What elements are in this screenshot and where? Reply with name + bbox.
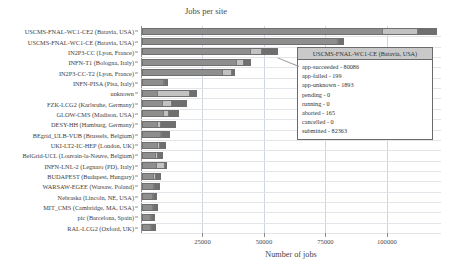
bar-segment-app-succeeded[interactable]: [143, 122, 157, 127]
y-tick-mark: [135, 72, 138, 73]
bar-segment-app-unknown[interactable]: [243, 60, 250, 65]
y-tick-mark: [135, 82, 138, 83]
category-label: GLOW-CMS (Madison, USA): [57, 110, 135, 117]
gridline-horizontal: [141, 171, 441, 172]
bar-stacked[interactable]: [142, 162, 167, 169]
bar-segment-app-succeeded[interactable]: [143, 225, 150, 230]
bar-segment-app-succeeded[interactable]: [143, 70, 222, 75]
y-tick-mark: [135, 31, 138, 32]
bar-segment-app-succeeded[interactable]: [143, 49, 250, 54]
bar-segment-app-failed[interactable]: [157, 91, 189, 96]
bar-segment-app-unknown[interactable]: [151, 215, 154, 220]
gridline-horizontal: [141, 161, 441, 162]
x-axis-title: Number of jobs: [141, 250, 441, 259]
bar-stacked[interactable]: [142, 79, 168, 86]
bar-segment-app-succeeded[interactable]: [143, 215, 150, 220]
bar-segment-app-failed[interactable]: [222, 70, 230, 75]
tooltip-row: cancelled - 0: [302, 117, 428, 126]
bar-stacked[interactable]: [142, 121, 176, 128]
bar-segment-app-failed[interactable]: [236, 60, 243, 65]
bar-segment-app-succeeded[interactable]: [143, 205, 152, 210]
bar-stacked[interactable]: [142, 48, 278, 55]
bar-stacked[interactable]: [142, 28, 437, 35]
y-tick-mark: [135, 196, 138, 197]
bar-segment-app-unknown[interactable]: [338, 39, 343, 44]
category-label: pic (Barcelona, Spain): [78, 214, 134, 221]
bar-segment-app-unknown[interactable]: [261, 49, 277, 54]
bar-segment-app-succeeded[interactable]: [143, 111, 163, 116]
bar-segment-app-succeeded[interactable]: [143, 153, 155, 158]
bar-segment-app-succeeded[interactable]: [143, 101, 162, 106]
y-tick-mark: [135, 124, 138, 125]
bar-stacked[interactable]: [142, 214, 155, 221]
gridline-horizontal: [141, 150, 441, 151]
bar-stacked[interactable]: [142, 152, 163, 159]
y-tick-mark: [135, 51, 138, 52]
y-tick-mark: [135, 217, 138, 218]
category-label: IN2P3-CC-T2 (Lyon, France): [59, 69, 134, 76]
tooltip-row: running - 0: [302, 99, 428, 108]
bar-segment-app-unknown[interactable]: [161, 132, 169, 137]
bar-segment-app-unknown[interactable]: [160, 122, 175, 127]
x-tick-label: 100000: [377, 238, 397, 245]
bar-segment-app-unknown[interactable]: [171, 101, 186, 106]
bar-segment-app-unknown[interactable]: [157, 153, 162, 158]
bar-segment-app-unknown[interactable]: [164, 163, 166, 168]
bar-segment-app-succeeded[interactable]: [143, 143, 157, 148]
category-label: BUDAPEST (Budapest, Hungary): [47, 173, 134, 180]
gridline-horizontal: [141, 192, 441, 193]
jobs-per-site-chart: Jobs per site USCMS-FNAL-WC1-CE2 (Batavi…: [0, 0, 450, 269]
bar-stacked[interactable]: [142, 142, 166, 149]
bar-stacked[interactable]: [142, 204, 158, 211]
category-label: unknown: [111, 90, 134, 97]
bar-segment-app-succeeded[interactable]: [143, 80, 163, 85]
bar-segment-app-unknown[interactable]: [153, 194, 156, 199]
gridline-horizontal: [141, 202, 441, 203]
bar-segment-app-unknown[interactable]: [155, 174, 160, 179]
category-label: BelGrid-UCL (Louvain-la-Neuve, Belgium): [22, 152, 134, 159]
bar-stacked[interactable]: [142, 110, 179, 117]
y-tick-mark: [135, 113, 138, 114]
x-tick-label: 75000: [317, 238, 333, 245]
gridline-horizontal: [141, 233, 441, 234]
bar-segment-app-failed[interactable]: [250, 49, 262, 54]
bar-segment-app-succeeded[interactable]: [143, 132, 160, 137]
bar-stacked[interactable]: [142, 69, 235, 76]
bar-segment-app-succeeded[interactable]: [143, 194, 152, 199]
bar-segment-app-succeeded[interactable]: [143, 163, 156, 168]
bar-segment-app-succeeded[interactable]: [143, 91, 157, 96]
category-label: INFN-LNL-2 (Legnaro (PD), Italy): [44, 162, 134, 169]
bar-segment-app-succeeded[interactable]: [143, 184, 153, 189]
bar-segment-app-unknown[interactable]: [168, 111, 179, 116]
bar-stacked[interactable]: [142, 183, 160, 190]
bar-segment-app-succeeded[interactable]: [143, 39, 337, 44]
gridline-horizontal: [141, 140, 441, 141]
bar-segment-app-unknown[interactable]: [231, 70, 235, 75]
y-tick-mark: [135, 93, 138, 94]
bar-segment-app-failed[interactable]: [156, 163, 164, 168]
bar-segment-app-succeeded[interactable]: [143, 60, 236, 65]
bar-segment-app-unknown[interactable]: [189, 91, 196, 96]
bar-stacked[interactable]: [142, 100, 187, 107]
bar-segment-app-unknown[interactable]: [159, 143, 165, 148]
bar-stacked[interactable]: [142, 131, 170, 138]
bar-segment-app-failed[interactable]: [162, 101, 171, 106]
y-tick-mark: [135, 134, 138, 135]
x-tick-label: 25000: [194, 238, 210, 245]
bar-segment-app-failed[interactable]: [382, 29, 416, 34]
bar-stacked[interactable]: [142, 193, 157, 200]
bar-segment-app-unknown[interactable]: [151, 225, 155, 230]
bar-stacked[interactable]: [142, 38, 344, 45]
bar-segment-app-unknown[interactable]: [417, 29, 437, 34]
bar-stacked[interactable]: [142, 90, 197, 97]
bar-segment-app-succeeded[interactable]: [143, 29, 382, 34]
bar-stacked[interactable]: [142, 173, 161, 180]
y-tick-mark: [135, 176, 138, 177]
bar-stacked[interactable]: [142, 59, 251, 66]
bar-segment-app-unknown[interactable]: [153, 205, 157, 210]
bar-segment-app-succeeded[interactable]: [143, 174, 153, 179]
bar-segment-app-unknown[interactable]: [154, 184, 159, 189]
category-axis-labels: USCMS-FNAL-WC1-CE2 (Batavia, USA)USCMS-F…: [0, 26, 138, 233]
bar-segment-app-unknown[interactable]: [164, 80, 166, 85]
bar-stacked[interactable]: [142, 224, 156, 231]
